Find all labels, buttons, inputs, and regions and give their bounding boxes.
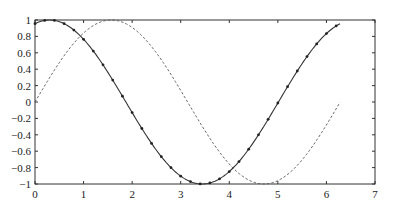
x-tick-label: 3: [178, 188, 184, 200]
data-marker: [208, 182, 211, 185]
y-tick-label: 0: [26, 96, 32, 108]
data-marker: [92, 50, 95, 53]
data-marker: [218, 177, 221, 180]
data-marker: [286, 85, 289, 88]
data-marker: [257, 133, 260, 136]
y-tick-label: 1: [26, 14, 32, 26]
data-marker: [102, 63, 105, 66]
data-marker: [111, 79, 114, 82]
y-tick-label: −1: [19, 178, 31, 190]
x-tick-label: 1: [81, 188, 87, 200]
data-marker: [325, 32, 328, 35]
x-tick-label: 2: [129, 188, 135, 200]
data-marker: [276, 102, 279, 105]
data-marker: [247, 148, 250, 151]
data-marker: [189, 180, 192, 183]
data-marker: [170, 166, 173, 169]
x-tick-label: 4: [227, 188, 233, 200]
y-tick-label: 0.2: [17, 80, 31, 92]
x-tick-label: 0: [32, 188, 38, 200]
y-tick-label: 0.4: [17, 63, 31, 75]
data-marker: [199, 183, 202, 186]
y-tick-label: 0.6: [17, 47, 31, 59]
plot-frame: [35, 20, 375, 184]
data-marker: [150, 142, 153, 145]
x-tick-label: 7: [372, 188, 378, 200]
data-marker: [140, 127, 143, 130]
x-tick-label: 6: [324, 188, 330, 200]
data-marker: [63, 22, 66, 25]
data-marker: [53, 19, 56, 22]
y-tick-label: −0.4: [11, 129, 31, 141]
y-tick-label: 0.8: [17, 30, 31, 42]
data-marker: [72, 29, 75, 32]
data-marker: [238, 160, 241, 163]
data-marker: [131, 111, 134, 114]
data-marker: [179, 175, 182, 178]
data-marker: [267, 118, 270, 121]
data-marker: [315, 42, 318, 45]
y-tick-label: −0.8: [11, 162, 31, 174]
y-tick-label: −0.6: [11, 145, 31, 157]
data-marker: [121, 95, 124, 98]
y-tick-label: −0.2: [11, 112, 31, 124]
data-marker: [43, 19, 46, 22]
data-marker: [296, 70, 299, 73]
data-marker: [306, 55, 309, 58]
data-marker: [34, 22, 37, 25]
data-marker: [335, 25, 338, 28]
data-marker: [160, 155, 163, 158]
data-marker: [82, 38, 85, 41]
line-chart: 01234567 −1−0.8−0.6−0.4−0.200.20.40.60.8…: [0, 0, 397, 215]
x-tick-label: 5: [275, 188, 281, 200]
data-marker: [228, 170, 231, 173]
